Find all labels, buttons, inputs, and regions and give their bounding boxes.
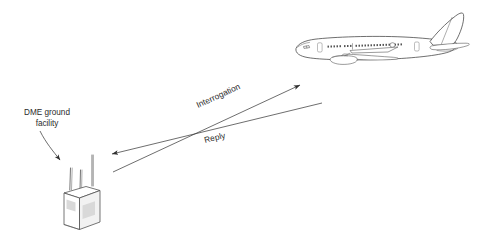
antenna-icon-middle xyxy=(80,170,81,190)
vertical-tail-fin xyxy=(430,13,464,45)
aft-door xyxy=(415,42,420,51)
reply-label: Reply xyxy=(203,130,227,145)
forward-door xyxy=(318,43,323,52)
ground-facility-label-line1: DME ground xyxy=(24,108,70,117)
dme-ground-station xyxy=(64,155,100,230)
fuselage-marking xyxy=(390,43,395,48)
diagram-canvas: DME ground facility xyxy=(0,0,482,246)
antenna-icon-left xyxy=(70,168,71,190)
reply-arrow xyxy=(112,103,322,154)
aircraft-illustration xyxy=(296,13,469,64)
ground-facility-label-line2: facility xyxy=(36,119,60,128)
dme-diagram: DME ground facility xyxy=(0,0,482,246)
callout-arrow-icon xyxy=(40,131,60,160)
antenna-group xyxy=(70,155,94,190)
ground-facility-label: DME ground facility xyxy=(24,108,70,128)
antenna-icon-left-edge xyxy=(72,168,73,190)
interrogation-label: Interrogation xyxy=(195,81,242,110)
station-front-face xyxy=(64,193,80,230)
